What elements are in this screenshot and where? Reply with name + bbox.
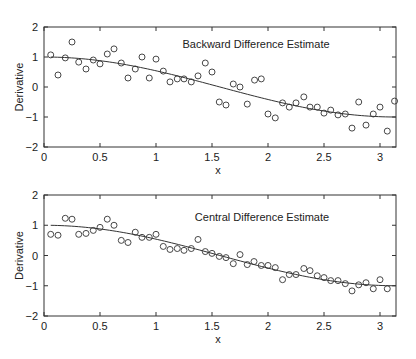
data-point: [62, 215, 68, 221]
data-point: [160, 243, 166, 249]
y-tick-label: 0: [32, 250, 38, 262]
data-point: [335, 278, 341, 284]
data-point: [202, 60, 208, 66]
data-point: [286, 104, 292, 110]
figure: 00.511.522.53−2−1012xDerivativeBackward …: [0, 0, 416, 359]
data-point: [272, 115, 278, 121]
data-point: [167, 246, 173, 252]
x-tick-label: 1: [153, 151, 159, 163]
y-tick-label: 1: [32, 51, 38, 63]
data-point: [125, 75, 131, 81]
data-point: [83, 66, 89, 72]
data-point: [160, 68, 166, 74]
data-point: [230, 81, 236, 87]
data-point: [307, 104, 313, 110]
x-tick-label: 2: [265, 320, 271, 332]
x-tick-label: 0.5: [92, 151, 107, 163]
y-tick-label: 2: [32, 21, 38, 33]
y-tick-label: 2: [32, 189, 38, 201]
data-point: [307, 268, 313, 274]
panel-central: 00.511.522.53−2−1012xDerivativeCentral D…: [13, 189, 396, 345]
data-point: [314, 273, 320, 279]
y-tick-label: 1: [32, 219, 38, 231]
data-point: [377, 277, 383, 283]
data-point: [76, 59, 82, 65]
data-point: [104, 51, 110, 57]
data-point: [293, 100, 299, 106]
x-tick-label: 0: [41, 320, 47, 332]
x-tick-label: 3: [377, 320, 383, 332]
data-point: [125, 239, 131, 245]
data-point: [181, 76, 187, 82]
data-point: [223, 102, 229, 108]
data-point: [252, 77, 258, 83]
x-tick-label: 0.5: [92, 320, 107, 332]
data-point: [118, 237, 124, 243]
x-tick-label: 0: [41, 151, 47, 163]
x-tick-label: 2: [265, 151, 271, 163]
x-axis-label: x: [215, 333, 221, 345]
x-tick-label: 1.5: [204, 320, 219, 332]
data-point: [349, 288, 355, 294]
data-point: [181, 247, 187, 253]
data-point: [301, 266, 307, 272]
data-point: [258, 76, 264, 82]
data-point: [392, 98, 398, 104]
data-point: [265, 111, 271, 117]
data-point: [237, 252, 243, 258]
x-tick-label: 2.5: [316, 320, 331, 332]
data-point: [48, 52, 54, 58]
y-tick-label: −1: [25, 111, 38, 123]
data-point: [69, 216, 75, 222]
data-point: [83, 230, 89, 236]
data-point: [356, 282, 362, 288]
data-point: [167, 79, 173, 85]
data-point: [314, 104, 320, 110]
data-point: [342, 281, 348, 287]
chart-annotation: Central Difference Estimate: [195, 211, 329, 223]
x-tick-label: 1: [153, 320, 159, 332]
data-point: [384, 286, 390, 292]
data-point: [174, 246, 180, 252]
data-point: [55, 232, 61, 238]
data-point: [146, 75, 152, 81]
y-tick-label: −2: [25, 141, 38, 153]
data-point: [76, 231, 82, 237]
x-tick-label: 2.5: [316, 151, 331, 163]
data-point: [195, 236, 201, 242]
y-axis-label: Derivative: [13, 231, 25, 280]
data-point: [97, 61, 103, 67]
data-point: [370, 286, 376, 292]
data-point: [230, 261, 236, 267]
data-point: [195, 73, 201, 79]
data-point: [104, 216, 110, 222]
data-point: [377, 104, 383, 110]
x-tick-label: 1.5: [204, 151, 219, 163]
data-point: [153, 231, 159, 237]
data-point: [153, 56, 159, 62]
data-point: [97, 224, 103, 230]
y-tick-label: 0: [32, 81, 38, 93]
data-point: [55, 72, 61, 78]
x-axis-label: x: [215, 164, 221, 176]
data-point: [286, 272, 292, 278]
data-point: [139, 54, 145, 60]
data-point: [244, 101, 250, 107]
data-point: [48, 231, 54, 237]
data-point: [111, 46, 117, 52]
data-point: [216, 99, 222, 105]
panel-backward: 00.511.522.53−2−1012xDerivativeBackward …: [13, 21, 398, 176]
y-tick-label: −1: [25, 280, 38, 292]
data-point: [209, 69, 215, 75]
data-point: [280, 277, 286, 283]
data-point: [69, 39, 75, 45]
chart-annotation: Backward Difference Estimate: [182, 38, 329, 50]
data-point: [139, 234, 145, 240]
data-point: [237, 84, 243, 90]
y-axis-label: Derivative: [13, 63, 25, 112]
data-point: [363, 122, 369, 128]
data-point: [174, 76, 180, 82]
data-point: [118, 60, 124, 66]
data-point: [349, 125, 355, 131]
x-tick-label: 3: [377, 151, 383, 163]
